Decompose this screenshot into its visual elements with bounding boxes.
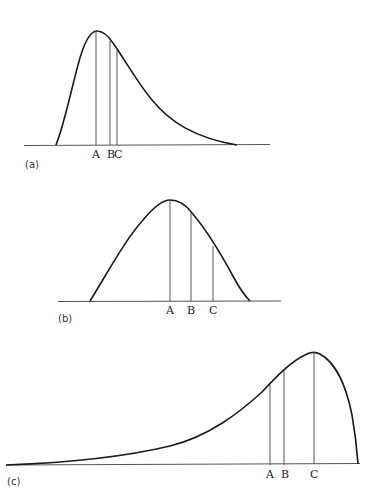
panel-a-marker-c-label: C xyxy=(114,148,122,161)
panel-b-marker-b-label: B xyxy=(187,304,195,317)
panel-a: A B C (a) xyxy=(24,31,270,170)
panel-b-baseline xyxy=(58,301,281,302)
panel-c-marker-c-label: C xyxy=(310,468,318,481)
panel-a-marker-a-label: A xyxy=(91,148,101,161)
panel-b-marker-a-label: A xyxy=(165,304,175,317)
panel-c-baseline xyxy=(6,464,360,466)
panel-b: A B C (b) xyxy=(58,200,281,324)
panel-b-caption: (b) xyxy=(58,313,72,324)
figure-canvas: A B C (a) A B C (b) A B C (c) xyxy=(0,0,379,500)
panel-b-marker-c-label: C xyxy=(209,304,217,317)
panel-c-curve xyxy=(6,353,358,465)
panel-a-caption: (a) xyxy=(25,159,39,170)
panel-c-marker-a-label: A xyxy=(265,468,275,481)
panel-c-caption: (c) xyxy=(7,476,20,487)
panel-c: A B C (c) xyxy=(6,352,360,487)
panel-a-curve xyxy=(56,31,237,145)
panel-c-marker-b-label: B xyxy=(281,468,289,481)
